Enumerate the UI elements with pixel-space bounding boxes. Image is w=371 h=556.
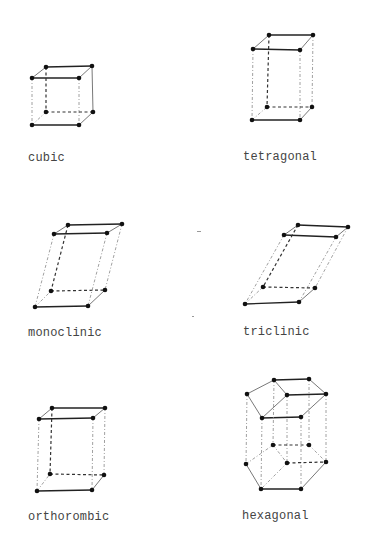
label-triclinic: triclinic: [243, 325, 310, 339]
label-tetragonal: tetragonal: [243, 150, 317, 164]
triclinic-lattice: [243, 223, 351, 307]
label-monoclinic: monoclinic: [28, 326, 102, 340]
label-orthorhombic: orthorombic: [28, 510, 109, 524]
atom-dots: [250, 33, 316, 123]
label-cubic: cubic: [28, 151, 65, 165]
lattice-diagram: [0, 0, 371, 556]
cubic-lattice: [30, 64, 96, 128]
orthorhombic-lattice: [35, 406, 108, 494]
hexagonal-lattice: [244, 377, 329, 492]
atom-dots: [33, 222, 125, 310]
label-hexagonal: hexagonal: [242, 509, 309, 523]
monoclinic-lattice: [33, 222, 125, 310]
scan-specks: [192, 231, 201, 317]
tetragonal-lattice: [250, 33, 316, 123]
